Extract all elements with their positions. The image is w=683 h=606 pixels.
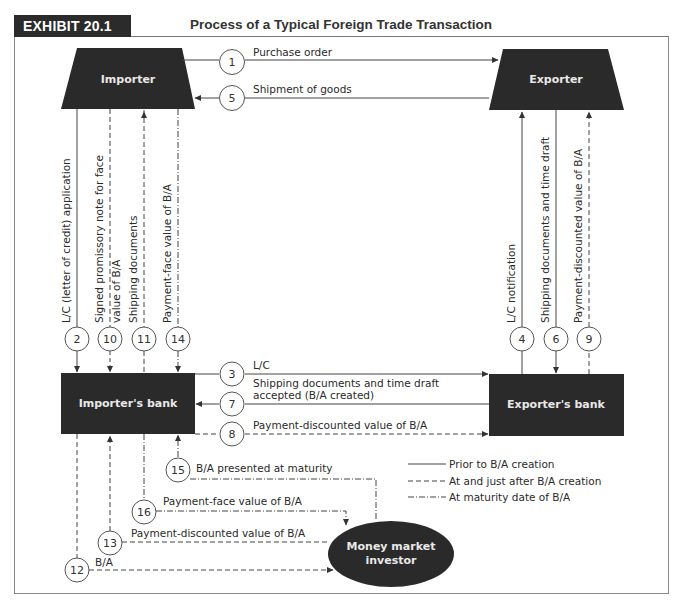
svg-text:12: 12 (70, 564, 84, 577)
svg-text:14: 14 (171, 333, 185, 346)
step-6-label: Shipping documents and time draft (539, 137, 551, 323)
svg-text:4: 4 (519, 333, 526, 346)
svg-text:16: 16 (137, 506, 151, 519)
legend-dashdot: At maturity date of B/A (449, 491, 571, 503)
investor-label-line1: Money market (347, 540, 436, 553)
money-market-investor-node: Money market investor (328, 521, 454, 587)
step-16-label: Payment-face value of B/A (163, 495, 303, 507)
investor-label-line2: investor (365, 554, 417, 567)
svg-text:6: 6 (553, 333, 560, 346)
importer-node: Importer (61, 48, 195, 109)
svg-text:15: 15 (171, 464, 185, 477)
step-10-label-line1: Signed promissory note for face (93, 155, 105, 323)
svg-text:9: 9 (586, 333, 593, 346)
step-1-label: Purchase order (253, 46, 333, 58)
step-3-label: L/C (253, 359, 270, 371)
step-4-lc-notification: 4 L/C notification (505, 112, 534, 374)
svg-text:11: 11 (137, 333, 151, 346)
svg-text:1: 1 (229, 56, 236, 69)
exporters-bank-label: Exporter's bank (507, 398, 605, 411)
step-7-label-line2: accepted (B/A created) (253, 389, 374, 401)
importer-label: Importer (101, 73, 156, 86)
step-12-label: B/A (95, 556, 114, 568)
svg-text:2: 2 (74, 333, 81, 346)
step-8-payment-discounted-value: 8 Payment-discounted value of B/A (195, 419, 488, 446)
legend-solid: Prior to B/A creation (449, 458, 554, 470)
step-5-label: Shipment of goods (253, 83, 352, 95)
step-11-label: Shipping documents (127, 215, 139, 323)
svg-text:3: 3 (229, 368, 236, 381)
step-6-shipping-docs-time-draft: 6 Shipping documents and time draft (539, 110, 568, 373)
step-10-label-line2: value of B/A (110, 259, 122, 323)
step-12-ba: 12 B/A (65, 434, 333, 582)
trade-flow-diagram: Importer Exporter Importer's bank Export… (0, 0, 683, 606)
step-11-shipping-documents: 11 Shipping documents (127, 110, 156, 373)
step-2-label: L/C (letter of credit) application (60, 158, 72, 323)
step-4-label: L/C notification (505, 244, 517, 323)
step-13-label: Payment-discounted value of B/A (131, 527, 306, 539)
importers-bank-label: Importer's bank (79, 397, 178, 410)
legend: Prior to B/A creation At and just after … (408, 458, 601, 503)
step-10-promissory-note: 10 Signed promissory note for face value… (93, 109, 122, 372)
step-15-ba-presented-at-maturity: 15 B/A presented at maturity (166, 435, 376, 521)
exporter-node: Exporter (489, 49, 624, 110)
step-14-label: Payment-face value of B/A (161, 183, 173, 323)
exporter-label: Exporter (529, 73, 583, 86)
svg-text:7: 7 (229, 398, 236, 411)
step-5-shipment-of-goods: 5 Shipment of goods (195, 83, 489, 111)
step-9-label: Payment-discounted value of B/A (572, 148, 584, 323)
step-15-label: B/A presented at maturity (196, 462, 333, 474)
step-2-lc-application: 2 L/C (letter of credit) application (60, 109, 89, 372)
step-1-purchase-order: 1 Purchase order (182, 46, 498, 75)
svg-text:13: 13 (103, 537, 117, 550)
step-9-payment-discounted-value: 9 Payment-discounted value of B/A (572, 112, 601, 374)
svg-text:5: 5 (229, 92, 236, 105)
step-14-payment-face-value: 14 Payment-face value of B/A (161, 109, 190, 372)
importers-bank-node: Importer's bank (61, 373, 195, 434)
svg-text:10: 10 (103, 333, 117, 346)
svg-text:8: 8 (229, 428, 236, 441)
step-7-label-line1: Shipping documents and time draft (253, 377, 439, 389)
legend-dashed: At and just after B/A creation (449, 475, 601, 487)
step-8-label: Payment-discounted value of B/A (253, 419, 428, 431)
exporters-bank-node: Exporter's bank (489, 374, 624, 436)
